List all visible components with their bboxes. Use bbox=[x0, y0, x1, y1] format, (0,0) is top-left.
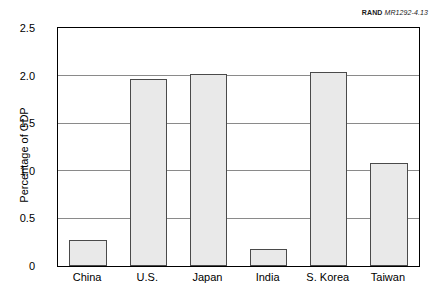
y-tick-label: 2.5 bbox=[0, 23, 35, 34]
source-label-code: MR1292-4.13 bbox=[384, 9, 428, 16]
x-tick-label: S. Korea bbox=[306, 270, 349, 284]
source-label: RANDMR1292-4.13 bbox=[362, 9, 428, 16]
plot-area: 00.51.01.52.02.5 bbox=[57, 27, 420, 267]
x-axis-tick-labels: ChinaU.S.JapanIndiaS. KoreaTaiwan bbox=[57, 270, 420, 290]
y-tick-label: 2.0 bbox=[0, 70, 35, 81]
y-tick-label: 0 bbox=[0, 261, 35, 272]
bar-china bbox=[69, 240, 106, 266]
source-label-org: RAND bbox=[362, 9, 383, 16]
y-tick-label: 1.5 bbox=[0, 118, 35, 129]
y-tick-label: 0.5 bbox=[0, 213, 35, 224]
bar-series bbox=[58, 28, 419, 266]
bar-india bbox=[250, 249, 287, 266]
bar-taiwan bbox=[370, 163, 407, 266]
y-tick-label: 1.0 bbox=[0, 165, 35, 176]
x-tick-label: Japan bbox=[192, 270, 222, 284]
x-tick-label: U.S. bbox=[137, 270, 158, 284]
bar-s-korea bbox=[310, 72, 347, 266]
bar-u-s bbox=[130, 79, 167, 266]
bar-japan bbox=[190, 74, 227, 266]
x-tick-label: Taiwan bbox=[371, 270, 405, 284]
x-tick-label: China bbox=[73, 270, 102, 284]
x-tick-label: India bbox=[256, 270, 280, 284]
bar-chart-figure: RANDMR1292-4.13 Percentage of GDP 00.51.… bbox=[0, 0, 436, 297]
